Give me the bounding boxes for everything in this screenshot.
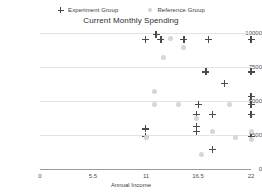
legend-item-reference-group: Reference Group (146, 7, 205, 14)
data-point-reference-group (210, 129, 215, 134)
data-point-experiment-group (193, 128, 200, 135)
x-axis-label: Annual Income (0, 182, 262, 188)
data-point-reference-group (152, 89, 157, 94)
x-tick-label: 5.5 (78, 173, 108, 179)
data-point-experiment-group (221, 80, 228, 87)
data-point-experiment-group (248, 111, 255, 118)
data-point-reference-group (227, 102, 232, 107)
data-point-experiment-group (205, 36, 212, 43)
data-point-reference-group (152, 102, 157, 107)
data-point-reference-group (199, 152, 204, 157)
scatter-chart-figure: Experiment Group Reference Group Current… (0, 0, 262, 194)
data-point-experiment-group (248, 93, 255, 100)
data-point-reference-group (181, 45, 186, 50)
data-point-experiment-group (195, 101, 202, 108)
circle-marker-icon (146, 7, 153, 14)
data-point-experiment-group (248, 36, 255, 43)
data-point-reference-group (249, 129, 254, 134)
data-point-experiment-group (142, 36, 149, 43)
data-point-experiment-group (248, 68, 255, 75)
data-point-reference-group (161, 55, 166, 60)
chart-legend: Experiment Group Reference Group (0, 4, 262, 16)
legend-label-experiment-group: Experiment Group (68, 7, 118, 13)
legend-label-reference-group: Reference Group (157, 7, 205, 13)
data-point-experiment-group (153, 31, 160, 38)
data-point-experiment-group (142, 125, 149, 132)
gridline-10000 (40, 33, 251, 34)
data-point-reference-group (194, 116, 199, 121)
data-point-experiment-group (209, 111, 216, 118)
data-point-reference-group (168, 36, 173, 41)
data-point-experiment-group (180, 36, 187, 43)
legend-item-experiment-group: Experiment Group (57, 7, 118, 14)
data-point-experiment-group (209, 146, 216, 153)
data-point-reference-group (176, 102, 181, 107)
x-tick-label: 16.5 (183, 173, 213, 179)
gridline-7500 (40, 67, 251, 68)
data-point-reference-group (233, 135, 238, 140)
x-tick-label: 0 (25, 173, 55, 179)
plus-marker-icon (57, 7, 64, 14)
data-point-experiment-group (248, 101, 255, 108)
plot-area (40, 33, 251, 169)
x-tick-label: 11 (131, 173, 161, 179)
data-point-reference-group (249, 137, 254, 142)
chart-title: Current Monthly Spending (0, 17, 262, 25)
gridline-5000 (40, 101, 251, 102)
data-point-experiment-group (202, 68, 209, 75)
x-tick-label: 22 (236, 173, 262, 179)
x-axis-line (40, 169, 251, 170)
